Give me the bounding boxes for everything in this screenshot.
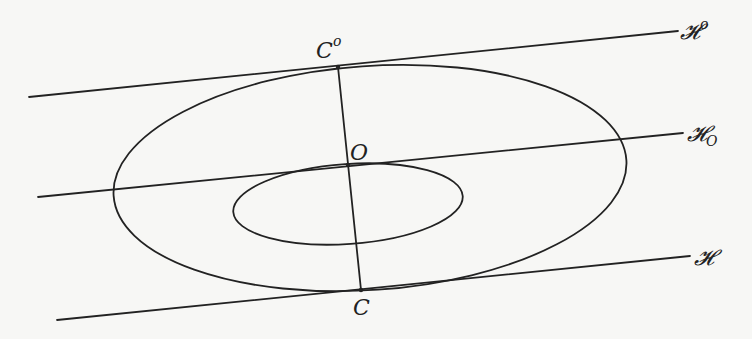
line-h-upper xyxy=(29,31,678,97)
line-h xyxy=(57,256,690,320)
label-h-upper-sup: o xyxy=(700,16,708,32)
label-c-upper: C xyxy=(316,38,333,63)
diagram-canvas: C o O C 𝓗 o 𝓗 O 𝓗 xyxy=(0,0,752,339)
label-h: 𝓗 xyxy=(694,245,723,270)
label-o: O xyxy=(350,140,368,165)
label-c: C xyxy=(353,295,370,320)
label-h-o-sub: O xyxy=(706,133,718,149)
point-c xyxy=(359,288,363,292)
label-c-upper-sup: o xyxy=(333,33,341,49)
point-c-upper xyxy=(336,65,340,69)
segment-c-upper-to-c xyxy=(338,67,361,290)
